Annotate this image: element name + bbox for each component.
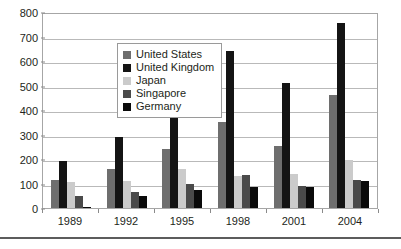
legend-label: Japan (136, 74, 166, 87)
bar-united-states-2001 (274, 146, 282, 208)
bar-germany-1992 (139, 196, 147, 208)
x-axis-tick-label: 1995 (154, 212, 210, 230)
legend-label: United States (136, 48, 202, 61)
bar-japan-2004 (345, 160, 353, 208)
legend-item-united-kingdom: United Kingdom (123, 61, 214, 74)
y-axis-tick-mark (41, 37, 45, 38)
bar-singapore-1995 (186, 184, 194, 209)
x-axis-tick-mark (42, 209, 43, 213)
bar-group-2001 (266, 14, 322, 208)
legend-item-japan: Japan (123, 74, 214, 87)
x-axis-tick-label: 2004 (322, 212, 378, 230)
bar-germany-2004 (361, 181, 369, 208)
y-axis-tick-label: 500 (0, 81, 38, 92)
x-axis-tick-mark (98, 209, 99, 213)
y-axis-tick-mark (41, 184, 45, 185)
x-axis: 198919921995199820012004 (42, 212, 378, 230)
bar-germany-1995 (194, 190, 202, 208)
x-axis-tick-label: 1992 (98, 212, 154, 230)
legend-swatch-icon (123, 90, 131, 98)
y-axis-tick-label: 100 (0, 179, 38, 190)
bar-singapore-1989 (75, 196, 83, 208)
bar-japan-1992 (123, 181, 131, 208)
bottom-divider (0, 237, 401, 239)
x-axis-tick-mark (378, 209, 379, 213)
y-axis-tick-mark (41, 62, 45, 63)
x-axis-tick-mark (210, 209, 211, 213)
x-axis-tick-mark (154, 209, 155, 213)
y-axis-tick-mark (41, 160, 45, 161)
bar-united-states-1995 (162, 149, 170, 208)
bar-japan-1995 (178, 169, 186, 208)
bar-united-kingdom-1989 (59, 161, 67, 208)
y-axis-tick-label: 700 (0, 32, 38, 43)
bar-singapore-2001 (298, 186, 306, 208)
x-axis-tick-mark (322, 209, 323, 213)
y-axis-tick-label: 0 (0, 204, 38, 215)
bar-singapore-1992 (131, 192, 139, 208)
bar-japan-2001 (290, 174, 298, 208)
y-axis-tick-label: 800 (0, 8, 38, 19)
bar-germany-1998 (250, 187, 258, 208)
chart-legend: United StatesUnited KingdomJapanSingapor… (117, 43, 222, 118)
bar-united-states-1992 (107, 169, 115, 208)
bar-singapore-1998 (242, 175, 250, 208)
bar-germany-1989 (83, 207, 91, 208)
y-axis-tick-mark (41, 135, 45, 136)
legend-swatch-icon (123, 64, 131, 72)
legend-item-singapore: Singapore (123, 87, 214, 100)
bar-singapore-2004 (353, 180, 361, 208)
legend-item-united-states: United States (123, 48, 214, 61)
bar-united-kingdom-2001 (282, 83, 290, 208)
legend-item-germany: Germany (123, 100, 214, 113)
y-axis: 8007006005004003002001000 (0, 13, 38, 209)
y-axis-tick-mark (41, 13, 45, 14)
y-axis-tick-label: 300 (0, 130, 38, 141)
legend-swatch-icon (123, 51, 131, 59)
bar-united-states-1989 (51, 180, 59, 208)
legend-label: United Kingdom (136, 61, 214, 74)
x-axis-tick-label: 1989 (42, 212, 98, 230)
y-axis-tick-label: 600 (0, 57, 38, 68)
y-axis-tick-label: 400 (0, 106, 38, 117)
bar-chart-figure: 8007006005004003002001000 United StatesU… (0, 0, 401, 249)
x-axis-tick-label: 2001 (266, 212, 322, 230)
y-axis-tick-mark (41, 86, 45, 87)
bar-group-1989 (43, 14, 99, 208)
bar-japan-1998 (234, 176, 242, 208)
bar-group-2004 (321, 14, 377, 208)
bar-united-kingdom-1998 (226, 51, 234, 208)
legend-label: Germany (136, 100, 181, 113)
legend-label: Singapore (136, 87, 186, 100)
bar-united-kingdom-1992 (115, 137, 123, 208)
y-axis-tick-mark (41, 111, 45, 112)
x-axis-tick-label: 1998 (210, 212, 266, 230)
bar-united-kingdom-2004 (337, 23, 345, 208)
plot-area: United StatesUnited KingdomJapanSingapor… (42, 13, 378, 209)
bar-japan-1989 (67, 182, 75, 208)
legend-swatch-icon (123, 77, 131, 85)
bar-united-states-1998 (218, 122, 226, 208)
bar-germany-2001 (306, 187, 314, 208)
legend-swatch-icon (123, 103, 131, 111)
bar-united-states-2004 (329, 95, 337, 208)
y-axis-tick-label: 200 (0, 155, 38, 166)
x-axis-tick-mark (266, 209, 267, 213)
